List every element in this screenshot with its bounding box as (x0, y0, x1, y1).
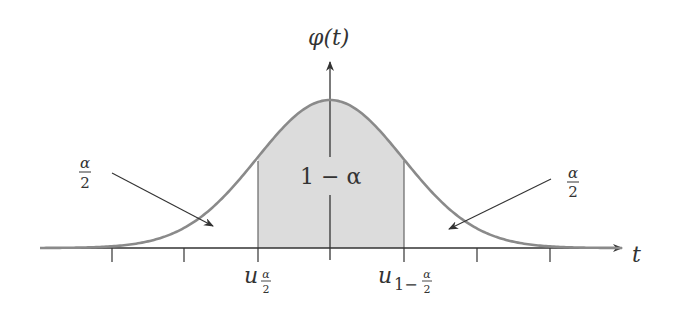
svg-text:u: u (244, 263, 258, 288)
svg-text:2: 2 (568, 183, 578, 201)
svg-text:2: 2 (80, 174, 90, 192)
svg-text:α: α (262, 268, 270, 281)
svg-text:2: 2 (263, 283, 270, 296)
svg-text:2: 2 (424, 283, 431, 296)
right-tail-label: α 2 (567, 164, 579, 201)
y-axis-label: φ(t) (308, 25, 349, 50)
x-axis-ticks (112, 248, 550, 262)
normal-distribution-diagram: φ(t) t 1 − α α 2 α 2 u α 2 u 1− α 2 (0, 0, 675, 328)
right-tail-arrow (449, 179, 551, 229)
svg-text:u: u (378, 263, 392, 288)
svg-text:1−: 1− (394, 275, 418, 294)
svg-text:α: α (423, 268, 431, 281)
lower-quantile-label: u α 2 (244, 263, 271, 296)
x-axis-label: t (632, 242, 641, 267)
upper-quantile-label: u 1− α 2 (378, 263, 432, 296)
svg-text:α: α (80, 154, 90, 172)
left-tail-label: α 2 (79, 154, 91, 192)
center-area-label: 1 − α (300, 164, 361, 189)
svg-text:α: α (568, 164, 578, 182)
left-tail-arrow (112, 173, 213, 226)
